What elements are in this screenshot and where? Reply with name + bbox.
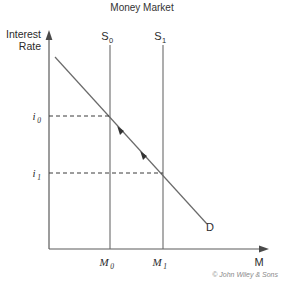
chart-title: Money Market <box>110 2 174 13</box>
copyright-credit: © John Wiley & Sons <box>212 271 278 279</box>
supply-s1-label-subscript: 1 <box>162 36 166 45</box>
money1-tick-label: M <box>151 256 162 268</box>
money1-tick-label-subscript: 1 <box>163 262 167 271</box>
rate1-tick-label: i <box>32 167 35 179</box>
money-market-diagram: Money Market Interest Rate M S 0 S 1 D i… <box>0 0 284 283</box>
y-axis-label-line2: Rate <box>19 40 41 52</box>
supply-s1-label: S <box>154 30 161 42</box>
money0-tick-label-subscript: 0 <box>110 262 114 271</box>
demand-curve-label: D <box>206 221 214 233</box>
supply-s0-label: S <box>101 30 108 42</box>
x-axis-name: M <box>254 256 263 268</box>
supply-s0-label-subscript: 0 <box>109 36 113 45</box>
rate0-tick-label: i <box>32 110 35 122</box>
rate1-tick-label-subscript: 1 <box>37 173 41 182</box>
figure-background <box>0 0 284 283</box>
money-market-figure: Money Market Interest Rate M S 0 S 1 D i… <box>0 0 284 283</box>
rate0-tick-label-subscript: 0 <box>37 116 41 125</box>
money0-tick-label: M <box>98 256 109 268</box>
y-axis-label-line1: Interest <box>6 28 41 40</box>
